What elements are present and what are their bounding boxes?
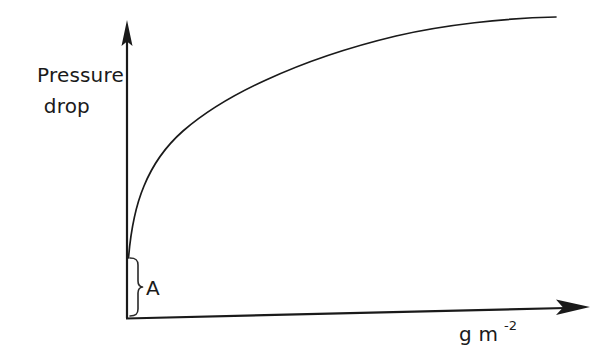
x-axis-group: [126, 300, 590, 319]
intercept-brace-group: [130, 258, 143, 316]
x-axis-label-group: g m -2: [459, 318, 517, 346]
annotation-label-a: A: [146, 276, 160, 300]
pressure-drop-curve: [129, 17, 557, 258]
y-axis-label-group: Pressure drop: [37, 63, 124, 118]
x-axis-label-exponent: -2: [504, 318, 517, 333]
x-axis-label-base: g m: [459, 322, 498, 346]
y-axis-label-line2: drop: [44, 94, 90, 118]
pressure-drop-schematic-chart: Pressure drop g m -2 A: [0, 0, 616, 364]
y-axis-label-line1: Pressure: [37, 63, 124, 87]
chart-canvas: Pressure drop g m -2 A: [0, 0, 616, 364]
x-axis-line: [126, 308, 566, 319]
intercept-brace-icon: [130, 258, 143, 316]
